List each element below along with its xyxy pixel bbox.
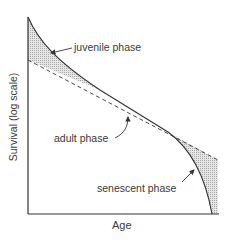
senescent-phase-label: senescent phase	[97, 183, 176, 194]
juvenile-shaded-region	[28, 17, 100, 90]
juvenile-phase-label: juvenile phase	[74, 42, 141, 53]
x-axis-label: Age	[112, 220, 132, 231]
juvenile-pointer-icon	[51, 48, 72, 53]
dashed-reference-line	[28, 60, 218, 160]
survival-diagram	[0, 0, 231, 241]
adult-phase-label: adult phase	[54, 133, 108, 144]
senescent-pointer-icon	[182, 170, 194, 182]
adult-pointer-icon	[115, 117, 128, 138]
senescent-shaded-region	[168, 132, 218, 214]
y-axis-label: Survival (log scale)	[8, 73, 19, 162]
